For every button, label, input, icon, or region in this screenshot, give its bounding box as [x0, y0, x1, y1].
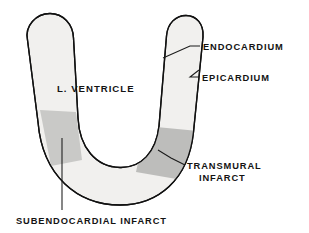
label-transmural-infarct-line2: INFARCT — [199, 173, 246, 183]
label-transmural-infarct-line1: TRANSMURAL — [187, 161, 262, 171]
label-epicardium: EPICARDIUM — [202, 73, 270, 83]
diagram-canvas: L. VENTRICLE ENDOCARDIUM EPICARDIUM TRAN… — [0, 0, 309, 233]
label-endocardium: ENDOCARDIUM — [203, 42, 284, 52]
label-subendocardial-infarct: SUBENDOCARDIAL INFARCT — [16, 216, 167, 226]
label-l-ventricle: L. VENTRICLE — [57, 83, 135, 94]
ventricle-infarct-diagram: L. VENTRICLE ENDOCARDIUM EPICARDIUM TRAN… — [0, 0, 309, 233]
